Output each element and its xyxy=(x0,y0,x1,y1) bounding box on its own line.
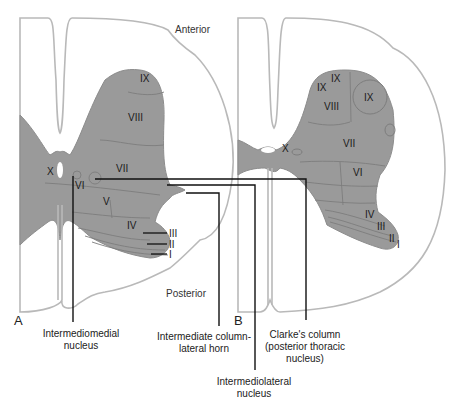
callout-intermediolateral-line1: Intermediolateral xyxy=(217,376,291,387)
panel-b: IX IX IX VIII VII X VI IV III II I B xyxy=(234,18,445,328)
lamina-label-vii: VII xyxy=(116,163,128,174)
lamina-label-v: V xyxy=(103,196,110,207)
b-lamina-label-vii: VII xyxy=(343,138,355,149)
lamina-label-iii: III xyxy=(169,228,177,239)
lamina-label-i: I xyxy=(169,249,172,260)
lamina-label-ix: IX xyxy=(140,73,150,84)
lamina-label-viii: VIII xyxy=(128,112,143,123)
callout-clarkes-column-line1: Clarke's column xyxy=(270,329,341,340)
callout-intermediomedial-line2: nucleus xyxy=(64,340,98,351)
lamina-label-vi: VI xyxy=(75,180,84,191)
spinal-cord-diagram: IX VIII VII X VI V IV III II I Anterior … xyxy=(0,0,454,413)
b-lamina-label-ii: II xyxy=(389,233,395,244)
b-lamina-label-viii: VIII xyxy=(324,101,339,112)
b-lamina-label-ix-3: IX xyxy=(364,92,374,103)
callout-intermediate-column-line1: Intermediate column- xyxy=(157,331,251,342)
b-lamina-label-x: X xyxy=(282,143,289,154)
lamina-label-x: X xyxy=(47,166,54,177)
b-lamina-label-i: I xyxy=(397,239,400,250)
b-lamina-label-ix-1: IX xyxy=(331,73,341,84)
callout-intermediate-column-line2: lateral horn xyxy=(179,343,229,354)
panel-a-central-canal xyxy=(57,162,63,178)
lamina-label-iv: IV xyxy=(127,220,137,231)
callout-clarkes-column-line3: nucleus) xyxy=(286,353,324,364)
b-lamina-label-iii: III xyxy=(377,221,385,232)
b-lamina-label-iv: IV xyxy=(365,209,375,220)
callout-intermediolateral-line2: nucleus xyxy=(237,388,271,399)
b-lamina-label-vi: VI xyxy=(353,167,362,178)
callout-intermediate-column: Intermediate column- lateral horn xyxy=(157,331,251,354)
anterior-label: Anterior xyxy=(175,24,211,35)
panel-a-letter: A xyxy=(14,313,23,328)
callout-clarkes-column: Clarke's column (posterior thoracic nucl… xyxy=(265,329,345,364)
panel-b-letter: B xyxy=(234,313,243,328)
callout-clarkes-column-line2: (posterior thoracic xyxy=(265,341,345,352)
panel-a: IX VIII VII X VI V IV III II I Anterior … xyxy=(14,18,233,328)
posterior-label: Posterior xyxy=(166,288,207,299)
panel-b-central-canal xyxy=(261,147,275,153)
callout-intermediomedial: Intermediomedial nucleus xyxy=(43,328,120,351)
b-lamina-label-ix-2: IX xyxy=(317,82,327,93)
callout-intermediolateral: Intermediolateral nucleus xyxy=(217,376,291,399)
callout-intermediomedial-line1: Intermediomedial xyxy=(43,328,120,339)
